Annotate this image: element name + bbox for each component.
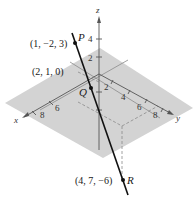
z-tick-4: 4 — [88, 34, 93, 44]
point-P — [73, 41, 77, 45]
point-R-label: R — [126, 174, 134, 186]
y-tick-8: 8 — [153, 110, 158, 120]
x-tick-8: 8 — [40, 110, 45, 120]
y-tick-4: 4 — [121, 92, 126, 102]
point-R — [121, 178, 125, 182]
y-tick-2: 2 — [104, 82, 109, 92]
x-axis-label: x — [13, 115, 18, 125]
point-P-label: P — [77, 31, 85, 43]
y-axis-label: y — [175, 113, 180, 123]
z-axis-label: z — [95, 5, 100, 15]
z-tick-2: 2 — [88, 53, 93, 63]
point-Q — [89, 86, 93, 90]
3d-diagram: (1, −2, 3) P (2, 1, 0) Q (4, 7, −6) R x … — [0, 0, 196, 201]
plane-point-coords: (2, 1, 0) — [32, 66, 64, 78]
y-tick-6: 6 — [137, 102, 142, 112]
point-P-coords: (1, −2, 3) — [30, 38, 67, 50]
point-R-coords: (4, 7, −6) — [75, 175, 112, 187]
point-Q-label: Q — [79, 86, 87, 98]
x-tick-6: 6 — [55, 103, 60, 113]
